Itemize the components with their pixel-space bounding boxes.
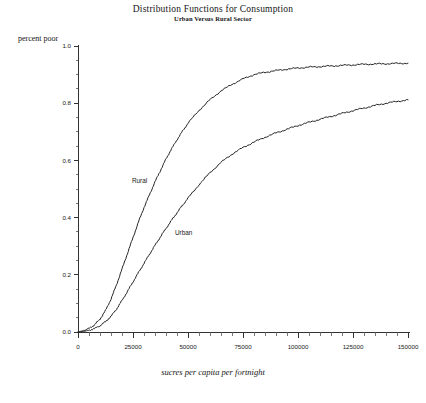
annotation-rural: Rural	[132, 177, 147, 184]
plot-area: 0.00.20.40.60.81.0 025000500007500010000…	[0, 0, 426, 403]
y-axis: 0.00.20.40.60.81.0	[62, 42, 78, 335]
y-tick-label: 0.4	[62, 214, 71, 221]
series-annotations: RuralUrban	[132, 177, 193, 235]
y-tick-label: 0.2	[62, 271, 71, 278]
x-tick-label: 50000	[179, 343, 197, 350]
x-tick-label: 100000	[288, 343, 309, 350]
annotation-urban: Urban	[175, 229, 193, 236]
curve-urban	[78, 100, 408, 332]
x-tick-label: 125000	[343, 343, 364, 350]
data-curves	[78, 63, 408, 332]
y-tick-label: 0.0	[62, 328, 71, 335]
x-tick-label: 0	[76, 343, 80, 350]
x-tick-label: 150000	[398, 343, 419, 350]
chart-page: Distribution Functions for Consumption U…	[0, 0, 426, 403]
x-tick-label: 25000	[124, 343, 142, 350]
x-tick-label: 75000	[234, 343, 252, 350]
y-tick-label: 0.6	[62, 157, 71, 164]
y-tick-label: 1.0	[62, 42, 71, 49]
y-tick-label: 0.8	[62, 99, 71, 106]
x-axis: 0250005000075000100000125000150000	[76, 332, 419, 350]
